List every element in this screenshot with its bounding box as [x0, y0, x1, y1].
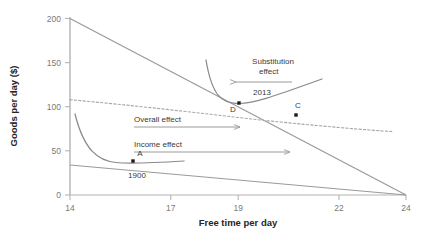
budget-line-1900: [70, 165, 406, 195]
overall-effect-label: Overall effect: [134, 115, 182, 124]
point-d-label: D: [230, 105, 236, 114]
y-tick-marks: [65, 19, 70, 196]
point-a-year-label: 1900: [128, 171, 146, 180]
budget-line-2013: [70, 19, 406, 196]
point-c-label: C: [295, 101, 301, 110]
y-tick-label-200: 200: [47, 14, 61, 24]
substitution-effect-label-line2: effect: [259, 67, 279, 76]
y-tick-label-50: 50: [52, 146, 62, 156]
x-tick-marks: [70, 195, 406, 200]
x-tick-label-22: 22: [334, 203, 344, 213]
point-d-year-label: 2013: [253, 88, 271, 97]
y-tick-label-150: 150: [47, 58, 61, 68]
data-point-a-marker: [131, 159, 134, 162]
data-point-c-marker: [294, 113, 297, 116]
income-effect-label: Income effect: [134, 140, 183, 149]
indifference-curve-chart: 200 150 100 50 0 14 17 19 22 24 Free tim…: [0, 0, 431, 232]
point-a-label: A: [137, 149, 143, 158]
x-tick-label-17: 17: [166, 203, 176, 213]
x-tick-label-24: 24: [401, 203, 411, 213]
data-point-d-marker: [237, 101, 240, 104]
y-axis-title: Goods per day ($): [8, 66, 19, 147]
x-tick-label-19: 19: [233, 203, 243, 213]
chart-canvas: 200 150 100 50 0 14 17 19 22 24 Free tim…: [0, 0, 431, 232]
y-tick-label-0: 0: [56, 190, 61, 200]
substitution-effect-label-line1: Substitution: [252, 57, 294, 66]
x-axis-title: Free time per day: [199, 217, 278, 228]
y-tick-label-100: 100: [47, 102, 61, 112]
x-tick-label-14: 14: [65, 203, 75, 213]
